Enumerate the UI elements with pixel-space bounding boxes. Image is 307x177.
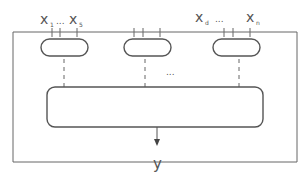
svg-text:x: x: [246, 9, 254, 25]
input-label-left: x 1 ... x 5: [40, 11, 83, 28]
svg-text:...: ...: [215, 14, 224, 24]
svg-text:x: x: [195, 9, 203, 25]
svg-text:5: 5: [79, 21, 83, 28]
outer-system-box: [13, 32, 297, 162]
svg-text:d: d: [205, 19, 209, 26]
sub-module-3: [213, 39, 260, 56]
sub-module-2: [124, 39, 171, 56]
diagram-canvas: ... x 1 ... x 5 x d ... x n y: [0, 0, 307, 177]
svg-text:1: 1: [50, 21, 54, 28]
sub-module-1: [41, 39, 88, 56]
input-label-right: x d ... x n: [195, 9, 260, 26]
dashed-connectors: [64, 59, 239, 87]
svg-text:x: x: [69, 11, 77, 27]
svg-text:x: x: [40, 11, 48, 27]
svg-text:...: ...: [56, 16, 65, 26]
middle-ellipsis: ...: [166, 67, 175, 77]
output-label: y: [153, 155, 162, 173]
aggregator-box: [47, 87, 263, 127]
arrow-down-icon: [154, 139, 160, 146]
svg-text:n: n: [256, 19, 260, 26]
